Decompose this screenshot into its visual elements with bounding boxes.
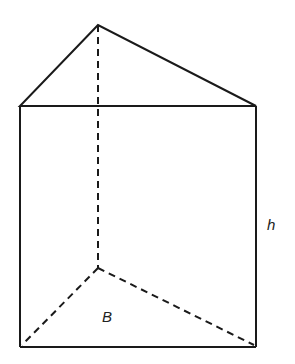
hidden-base-left-edge — [22, 268, 98, 345]
base-label: B — [102, 308, 112, 325]
hidden-base-right-edge — [98, 268, 254, 345]
triangular-prism-diagram: h B — [0, 0, 295, 364]
height-label: h — [267, 216, 275, 233]
top-face — [20, 25, 256, 106]
